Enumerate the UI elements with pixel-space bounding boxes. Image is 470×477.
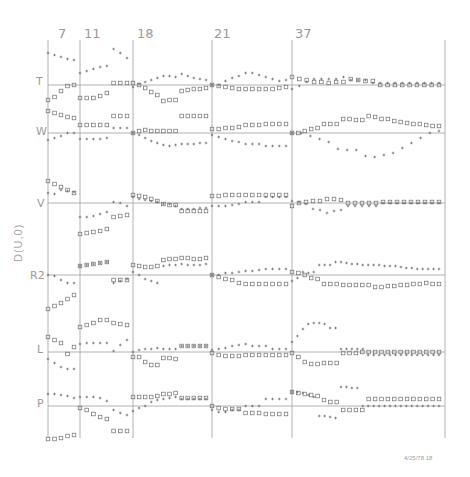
plus-marker [150, 280, 153, 283]
square-marker [437, 282, 441, 286]
plus-marker [168, 145, 171, 148]
plus-marker [410, 142, 413, 145]
square-marker [174, 391, 178, 395]
plus-marker [357, 79, 360, 82]
square-marker [149, 265, 153, 269]
square-marker [149, 363, 153, 367]
plus-marker [238, 141, 241, 144]
plus-marker [162, 144, 165, 147]
plus-marker [394, 405, 397, 408]
square-marker [59, 185, 63, 189]
plus-marker [224, 272, 227, 275]
plus-marker [405, 267, 408, 270]
plus-marker [265, 345, 268, 348]
square-marker [431, 282, 435, 286]
square-marker [98, 318, 102, 322]
square-marker [257, 411, 261, 415]
plus-marker [205, 142, 208, 145]
square-marker [264, 353, 268, 357]
plus-marker [85, 70, 88, 73]
plus-marker [258, 345, 261, 348]
plus-marker [73, 132, 76, 135]
square-marker [143, 195, 147, 199]
plus-marker [244, 405, 247, 408]
plus-marker [364, 155, 367, 158]
square-marker [85, 231, 89, 235]
square-marker [59, 89, 63, 93]
square-marker [392, 284, 396, 288]
square-marker [105, 227, 109, 231]
square-marker [309, 393, 313, 397]
square-marker [329, 282, 333, 286]
square-marker [85, 323, 89, 327]
plus-marker [92, 215, 95, 218]
square-marker [105, 123, 109, 127]
square-marker [66, 115, 70, 119]
plus-marker [60, 394, 63, 397]
square-marker [92, 96, 96, 100]
square-marker [329, 122, 333, 126]
plus-marker [334, 327, 337, 330]
square-marker [137, 194, 141, 198]
plus-marker [211, 84, 214, 87]
plus-marker [346, 149, 349, 152]
square-marker [98, 229, 102, 233]
square-marker [224, 354, 228, 358]
plus-marker [373, 156, 376, 159]
square-marker [186, 88, 190, 92]
square-marker [237, 354, 241, 358]
square-marker [327, 81, 331, 85]
square-marker [162, 258, 166, 262]
plus-marker [92, 138, 95, 141]
square-marker [66, 352, 70, 356]
plus-marker [66, 132, 69, 135]
square-marker [224, 193, 228, 197]
square-marker [316, 126, 320, 130]
plus-marker [126, 339, 129, 342]
plus-marker [66, 395, 69, 398]
square-marker [297, 355, 301, 359]
plus-marker [231, 77, 234, 80]
square-marker [309, 127, 313, 131]
square-marker [367, 397, 371, 401]
plus-marker [329, 416, 332, 419]
square-marker [251, 87, 255, 91]
plus-marker [106, 400, 109, 403]
plus-marker [156, 282, 159, 285]
plus-marker [318, 322, 321, 325]
plus-marker [53, 362, 56, 365]
plus-marker [156, 399, 159, 402]
square-marker [257, 282, 261, 286]
square-marker [257, 87, 261, 91]
plus-marker [66, 368, 69, 371]
square-marker [339, 198, 343, 202]
plus-marker [372, 264, 375, 267]
square-marker [367, 283, 371, 287]
plus-marker [342, 76, 345, 79]
square-marker [412, 282, 416, 286]
square-marker [392, 119, 396, 123]
square-marker [112, 429, 116, 433]
square-marker [354, 283, 358, 287]
square-marker [230, 354, 234, 358]
plus-marker [329, 264, 332, 267]
plus-marker [251, 270, 254, 273]
square-marker [348, 117, 352, 121]
plus-marker [199, 345, 202, 348]
square-marker [424, 397, 428, 401]
plus-marker [85, 264, 88, 267]
square-marker [105, 417, 109, 421]
square-marker [264, 412, 268, 416]
square-marker [180, 114, 184, 118]
plus-marker [99, 397, 102, 400]
plus-marker [265, 398, 268, 401]
plus-marker [162, 348, 165, 351]
square-marker [312, 80, 316, 84]
square-marker [118, 214, 122, 218]
plus-marker [307, 272, 310, 275]
square-marker [284, 412, 288, 416]
plus-marker [244, 72, 247, 75]
square-marker [72, 116, 76, 120]
square-marker [322, 361, 326, 365]
square-marker [405, 397, 409, 401]
